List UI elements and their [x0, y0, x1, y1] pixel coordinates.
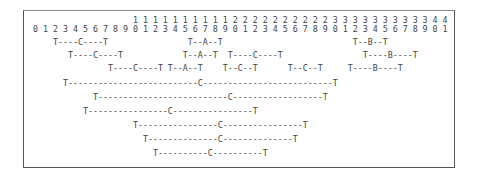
interval-row-8: T--------------C--------------T [33, 135, 298, 144]
interval-row-3: T----C----T T--A--T T--C--T T--C--T T---… [33, 64, 403, 73]
interval-row-1: T----C----T T--A--T T--B--T [33, 38, 388, 47]
interval-row-9: T----------C----------T [33, 149, 268, 158]
interval-row-6: T----------------C----------------T [33, 107, 258, 116]
interval-row-7: T----------------C----------------T [33, 121, 308, 130]
index-header-ones: 0 1 2 3 4 5 6 7 8 9 0 1 2 3 4 5 6 7 8 9 … [33, 25, 448, 34]
interval-row-5: T--------------------------C------------… [33, 93, 328, 102]
interval-row-2: T----C----T T--A--T T----C----T T----B--… [33, 51, 418, 60]
interval-row-4: T--------------------------C------------… [33, 79, 338, 88]
